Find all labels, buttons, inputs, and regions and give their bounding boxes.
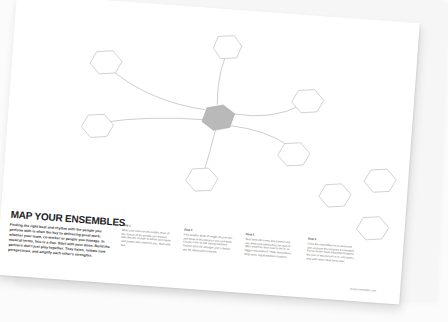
node-hexagon-extra[interactable] (356, 215, 390, 241)
node-hexagon[interactable] (291, 88, 325, 114)
step-1: Step 1 Write your name in the middle, th… (121, 224, 173, 251)
node-hexagon-extra[interactable] (318, 182, 352, 208)
center-hexagon[interactable] (201, 104, 235, 132)
step-4: Step 4 Ones the ensembles is reconnected… (306, 238, 358, 265)
connector-line (104, 112, 204, 129)
step-text: Write your name in the middle, then all … (121, 228, 171, 248)
connector-line (107, 69, 207, 110)
ensemble-map-diagram (0, 0, 420, 304)
step-text: Ones the ensembles is reconnected and ev… (306, 241, 355, 263)
connector-line (204, 130, 215, 170)
node-hexagon[interactable] (213, 34, 243, 60)
step-text: Next look into every line partner and se… (244, 237, 291, 259)
node-hexagon[interactable] (277, 141, 311, 167)
ensemble-worksheet: MAP YOUR ENSEMBLES Finding the right bea… (0, 0, 420, 304)
step-3: Step 3 Next look into every line partner… (244, 233, 296, 260)
node-hexagon[interactable] (81, 113, 115, 139)
connector-line (217, 59, 225, 105)
connector-line (233, 100, 302, 120)
node-hexagon-extra[interactable] (363, 168, 397, 194)
node-hexagon[interactable] (185, 166, 219, 192)
step-2: Step 2 If it's helpful, think of length … (182, 228, 234, 255)
node-hexagon[interactable] (89, 49, 123, 75)
connector-line (229, 126, 290, 146)
step-text: If it's helpful, think of length of each… (182, 232, 232, 254)
